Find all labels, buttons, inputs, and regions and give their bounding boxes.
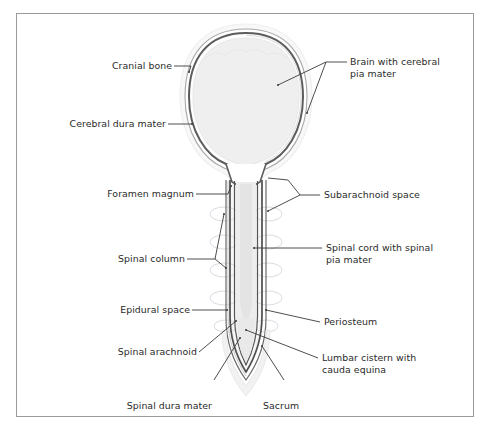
label-epidural-space: Epidural space: [64, 304, 190, 316]
label-spinal-arachnoid: Spinal arachnoid: [59, 346, 197, 358]
label-periosteum: Periosteum: [324, 316, 434, 328]
label-cranial-bone: Cranial bone: [44, 60, 172, 72]
label-spinal-cord-with-spinal-pia-mater: Spinal cord with spinal pia mater: [326, 242, 462, 265]
brain-shape: [193, 38, 299, 165]
label-sacrum: Sacrum: [263, 400, 343, 412]
label-brain-with-cerebral-pia-mater: Brain with cerebral pia mater: [350, 56, 470, 79]
label-spinal-column: Spinal column: [61, 253, 185, 265]
label-cerebral-dura-mater: Cerebral dura mater: [34, 118, 166, 130]
label-lumbar-cistern-with-cauda-equina: Lumbar cistern with cauda equina: [322, 352, 458, 375]
label-subarachnoid-space: Subarachnoid space: [324, 189, 454, 201]
label-spinal-dura-mater: Spinal dura mater: [86, 400, 212, 412]
figure-page: Cranial bone Cerebral dura mater Foramen…: [0, 0, 490, 435]
label-foramen-magnum: Foramen magnum: [66, 188, 194, 200]
